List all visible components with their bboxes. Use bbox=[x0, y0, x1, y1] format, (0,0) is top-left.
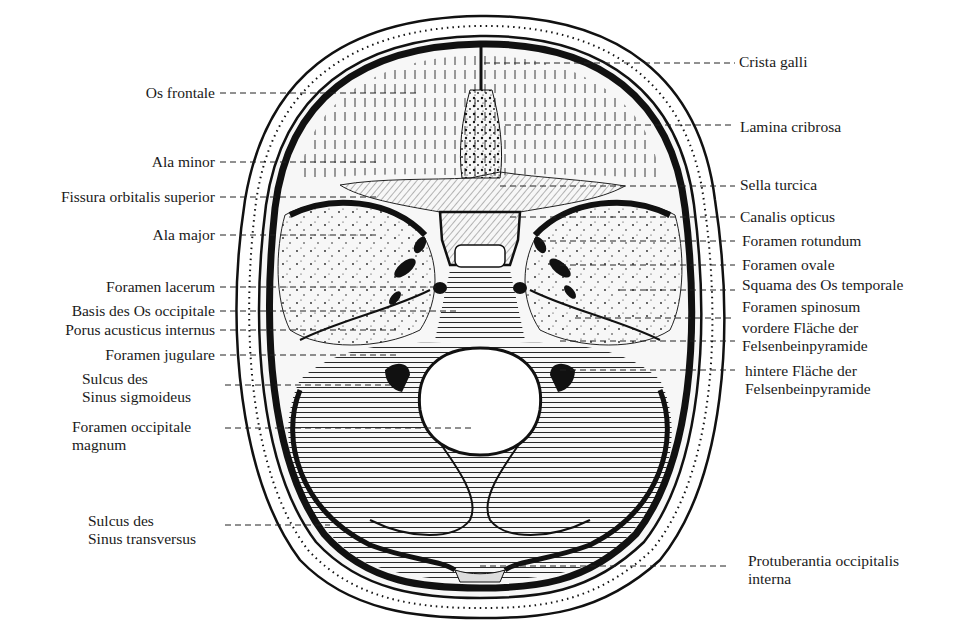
label-squama-os-temporale: Squama des Os temporale bbox=[742, 276, 903, 294]
label-ala-minor: Ala minor bbox=[152, 153, 215, 171]
label-fissura-orbitalis-superior: Fissura orbitalis superior bbox=[61, 188, 215, 206]
foramen-lacerum-right bbox=[513, 282, 527, 294]
label-foramen-spinosum: Foramen spinosum bbox=[742, 298, 860, 316]
label-foramen-ovale: Foramen ovale bbox=[742, 256, 835, 274]
label-foramen-occipitale-magnum: Foramen occipitale magnum bbox=[72, 418, 191, 454]
label-sulcus-sinus-transversus: Sulcus des Sinus transversus bbox=[88, 512, 196, 548]
label-sulcus-sinus-sigmoideus: Sulcus des Sinus sigmoideus bbox=[82, 370, 191, 406]
dorsum-sellae bbox=[455, 245, 505, 267]
label-sella-turcica: Sella turcica bbox=[740, 176, 817, 194]
label-lamina-cribrosa: Lamina cribrosa bbox=[740, 118, 841, 136]
label-vordere-flaeche: vordere Fläche der Felsenbeinpyramide bbox=[742, 319, 868, 355]
lamina-cribrosa-shape bbox=[460, 90, 501, 178]
label-foramen-rotundum: Foramen rotundum bbox=[742, 232, 861, 250]
label-os-frontale: Os frontale bbox=[146, 84, 215, 102]
foramen-lacerum-left bbox=[433, 282, 447, 294]
label-basis-des-os-occipitale: Basis des Os occipitale bbox=[72, 302, 215, 320]
label-ala-major: Ala major bbox=[153, 226, 215, 244]
foramen-magnum bbox=[419, 348, 540, 455]
label-crista-galli: Crista galli bbox=[739, 53, 807, 71]
label-protuberantia-occipitalis-interna: Protuberantia occipitalis interna bbox=[748, 552, 899, 588]
label-foramen-jugulare: Foramen jugulare bbox=[105, 346, 215, 364]
label-canalis-opticus: Canalis opticus bbox=[740, 208, 835, 226]
label-foramen-lacerum: Foramen lacerum bbox=[106, 278, 215, 296]
label-porus-acusticus-internus: Porus acusticus internus bbox=[65, 321, 215, 339]
label-hintere-flaeche: hintere Fläche der Felsenbeinpyramide bbox=[745, 362, 871, 398]
clivus bbox=[435, 270, 525, 340]
